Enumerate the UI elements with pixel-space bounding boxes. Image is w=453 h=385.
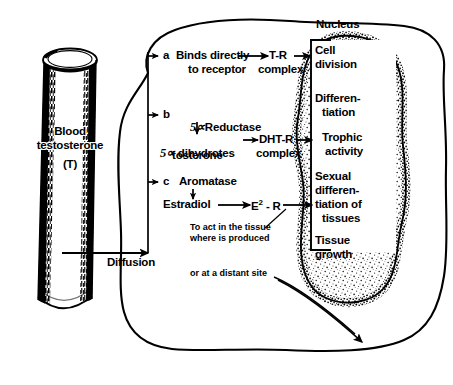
pathway-b-product-line2: tosterone — [172, 150, 223, 162]
nucleus-effect-sexual-l3: tiation of — [315, 198, 362, 210]
nucleus-effect-tissue-growth-l2: growth — [315, 248, 352, 260]
nucleus-effect-trophic-l1: Trophic — [322, 131, 362, 143]
complex-e2r: E2 - R — [251, 199, 281, 213]
nucleus-effect-cell-division-l1: Cell — [315, 44, 335, 56]
blood-vessel-graphic — [38, 49, 97, 309]
complex-tr-line2: complex — [258, 64, 303, 76]
reductase-word: Reductase — [205, 121, 261, 133]
complex-dhtr-line2: complex — [256, 148, 301, 160]
nucleus-label: Nucleus — [316, 19, 359, 31]
pathway-c-enzyme: Aromatase — [179, 176, 237, 188]
caption-distant-site: or at a distant site — [190, 268, 267, 279]
nucleus-effect-sexual-l2: differen- — [315, 184, 359, 196]
caption-local-line1: To act in the tissue — [190, 222, 271, 233]
complex-dhtr-line1: DHT-R — [259, 134, 293, 146]
vessel-label-line2: testosterone — [6, 139, 134, 152]
alpha-symbol-reductase: 5∝ — [190, 120, 205, 134]
pathway-letter-a: a — [163, 50, 169, 62]
nucleus-effect-cell-division-l2: division — [315, 58, 357, 70]
pathway-letter-b: b — [163, 109, 170, 121]
e2-superscript: 2 — [258, 198, 262, 207]
pathway-a-line1: Binds directly — [176, 50, 249, 62]
nucleus-effect-differentiation-l1: Differen- — [315, 92, 360, 104]
nucleus-effect-trophic-l2: activity — [325, 145, 363, 157]
nucleus-effect-differentiation-l2: tiation — [322, 106, 355, 118]
nucleus-effect-tissue-growth-l1: Tissue — [315, 234, 350, 246]
caption-local-line2: where is produced — [190, 233, 270, 244]
vessel-label-line1: Blood — [10, 125, 130, 138]
vessel-label-line3: (T) — [10, 158, 130, 171]
nucleus-effect-sexual-l1: Sexual — [315, 170, 351, 182]
testosterone-action-diagram: Blood testosterone (T) Diffusion Nucleus… — [0, 0, 453, 385]
pathway-a-line2: to receptor — [188, 64, 246, 76]
diffusion-label: Diffusion — [107, 257, 155, 269]
pathway-letter-c: c — [163, 176, 169, 188]
pathway-c-product: Estradiol — [163, 199, 210, 211]
nucleus-effect-sexual-l4: tissues — [322, 212, 360, 224]
complex-tr-line1: T-R — [269, 50, 287, 62]
